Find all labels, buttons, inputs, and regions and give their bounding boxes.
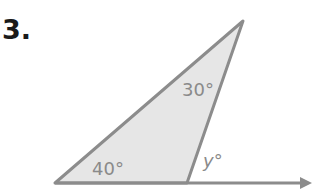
triangle-diagram: 40° 30° y° [0,0,323,189]
arrow-head-icon [300,177,312,189]
angle-label-y: y° [202,150,223,171]
angle-label-30: 30° [182,79,214,100]
angle-label-40: 40° [92,158,124,179]
